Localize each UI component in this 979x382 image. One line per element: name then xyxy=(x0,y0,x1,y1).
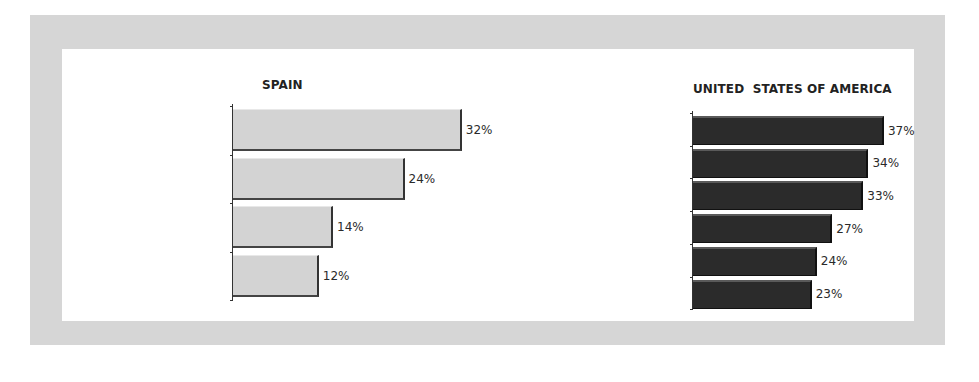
data-label: 24% xyxy=(409,172,436,186)
axis-tick xyxy=(690,277,693,278)
axis-tick xyxy=(230,203,233,204)
axis-tick xyxy=(690,113,693,114)
axis-tick xyxy=(230,155,233,156)
figure-panel: SPAIN Domestic Service32%Construction Da… xyxy=(62,49,914,321)
data-label: 23% xyxy=(816,287,843,301)
axis-tick xyxy=(230,106,233,107)
axis-tick xyxy=(690,309,693,310)
bar xyxy=(233,206,333,248)
data-label: 34% xyxy=(872,156,899,170)
data-label: 33% xyxy=(867,189,894,203)
axis-tick xyxy=(690,244,693,245)
bar xyxy=(233,255,319,297)
axis-tick xyxy=(230,252,233,253)
chart-title-spain: SPAIN xyxy=(262,78,303,92)
data-label: 12% xyxy=(323,269,350,283)
chart-title-usa: UNITED STATES OF AMERICA xyxy=(693,82,892,96)
bar xyxy=(693,280,812,309)
axis-tick xyxy=(690,211,693,212)
data-label: 32% xyxy=(466,123,493,137)
bar xyxy=(693,181,863,210)
axis-tick xyxy=(690,178,693,179)
axis-tick xyxy=(690,146,693,147)
data-label: 37% xyxy=(888,124,915,138)
axis-tick xyxy=(230,300,233,301)
bar xyxy=(693,247,817,276)
bar xyxy=(233,158,405,200)
data-label: 14% xyxy=(337,220,364,234)
data-label: 27% xyxy=(836,222,863,236)
data-label: 24% xyxy=(821,254,848,268)
bar xyxy=(233,109,462,151)
bar xyxy=(693,149,868,178)
bar xyxy=(693,214,832,243)
bar xyxy=(693,116,884,145)
